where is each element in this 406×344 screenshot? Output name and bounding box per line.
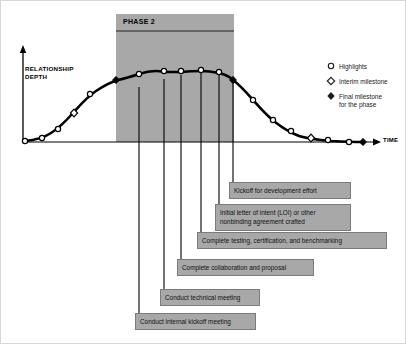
marker-highlight: [136, 71, 141, 76]
figure-container: PHASE 2 RELATIONSHIP DEPTH TIME Highligh…: [0, 0, 406, 344]
marker-highlight: [178, 68, 183, 73]
marker-highlight: [250, 97, 255, 102]
marker-highlight: [161, 68, 166, 73]
y-axis-label: RELATIONSHIP DEPTH: [25, 65, 74, 81]
marker-highlight: [216, 69, 221, 74]
callout-letter-of-intent: Initial letter of intent (LOI) or other …: [215, 204, 351, 231]
marker-highlight: [288, 128, 293, 133]
marker-highlight: [87, 91, 92, 96]
x-axis-arrowhead: [373, 139, 381, 146]
callout-kickoff-development: Kickoff for development effort: [229, 182, 351, 199]
marker-highlight: [39, 135, 44, 140]
legend-filled-diamond-icon: [328, 93, 334, 100]
legend-markers: [327, 63, 334, 99]
legend-item-highlights: Highlights: [339, 63, 367, 71]
y-axis-arrowhead: [20, 45, 26, 53]
marker-highlight: [270, 117, 275, 122]
legend-item-final-milestone: Final milestone for the phase: [339, 93, 382, 110]
phase-2-title: PHASE 2: [123, 18, 155, 25]
marker-final-milestone: [360, 138, 367, 145]
legend-open-circle-icon: [328, 63, 333, 68]
marker-interim-milestone: [307, 134, 314, 142]
x-axis-label: TIME: [383, 136, 398, 144]
marker-highlight: [55, 126, 60, 131]
callout-conduct-technical-meeting: Conduct technical meeting: [160, 289, 260, 306]
legend-open-diamond-icon: [327, 77, 334, 84]
phase-2-band: [116, 14, 234, 142]
callout-complete-collaboration: Complete collaboration and proposal: [177, 259, 314, 276]
marker-highlight: [198, 67, 203, 72]
callout-complete-testing: Complete testing, certification, and ben…: [197, 232, 387, 249]
callout-conduct-internal-kickoff: Conduct internal kickoff meeting: [135, 313, 256, 330]
marker-highlight: [22, 138, 27, 143]
marker-highlight: [325, 137, 330, 142]
marker-highlight: [346, 139, 351, 144]
legend-item-interim-milestone: Interim milestone: [339, 78, 388, 86]
